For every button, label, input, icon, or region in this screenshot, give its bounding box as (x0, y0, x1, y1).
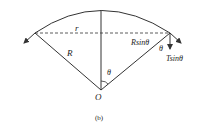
label-R: R (66, 48, 73, 58)
arc (35, 11, 170, 34)
figure-caption: (b) (95, 114, 104, 122)
label-rsin-theta: Rsinθ (130, 38, 149, 47)
left-tangent-arrow (24, 33, 35, 43)
right-tangent-arrow (170, 33, 181, 43)
center-angle-arc (101, 81, 108, 84)
label-tsin-theta: Tsinθ (166, 54, 183, 63)
label-theta-center: θ (107, 68, 111, 77)
label-theta-right: θ (159, 44, 163, 53)
label-origin: O (95, 92, 102, 102)
diagram: r R Rsinθ θ Tsinθ θ O (b) (0, 0, 201, 129)
label-r: r (75, 23, 79, 33)
radius-left (35, 33, 101, 90)
